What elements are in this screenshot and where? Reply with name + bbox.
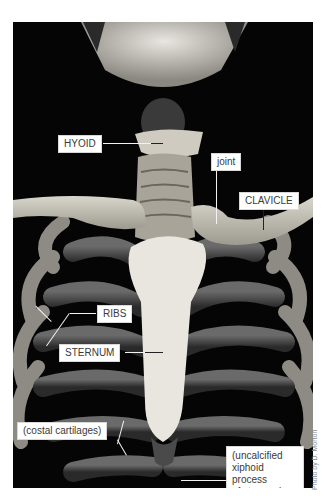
- mandible: [81, 22, 248, 87]
- xiphoid-leader-line: [181, 480, 226, 481]
- photo-credit: Photo by D. Morton: [311, 430, 318, 490]
- hyoid-leader-line: [103, 143, 151, 144]
- costal-cartilage: [73, 465, 153, 472]
- clavicle-left: [13, 196, 146, 229]
- label-xiphoid-line1: (uncalcified: [232, 450, 298, 462]
- label-xiphoid-line3: of sternum): [232, 486, 298, 488]
- clavicle-leader-line: [263, 208, 264, 230]
- costal-cartilage: [185, 291, 275, 307]
- costal-cartilage: [175, 426, 275, 432]
- costal-cartilage: [181, 380, 285, 388]
- label-joint: joint: [211, 153, 241, 171]
- costal-cartilage: [43, 380, 145, 388]
- label-costal-cartilages: (costal cartilages): [17, 422, 107, 440]
- label-xiphoid-line2: xiphoid process: [232, 462, 298, 486]
- label-ribs: RIBS: [97, 305, 132, 323]
- joint-leader-line: [216, 170, 217, 224]
- skeleton-illustration: [13, 22, 313, 488]
- skeleton-photo: HYOID joint CLAVICLE RIBS STERNUM (costa…: [13, 22, 313, 488]
- sternum-leader-line-tip: [145, 352, 163, 353]
- label-hyoid: HYOID: [58, 135, 102, 153]
- cervical-spine: [135, 154, 195, 243]
- sternum-leader-line: [125, 352, 145, 353]
- costal-cartilage: [183, 336, 285, 347]
- label-clavicle: CLAVICLE: [239, 192, 299, 210]
- label-sternum: STERNUM: [59, 344, 120, 362]
- hyoid-leader-line-tip: [151, 143, 163, 144]
- ribs-leader-line: [70, 313, 96, 314]
- label-xiphoid-process: (uncalcified xiphoid process of sternum): [226, 446, 304, 488]
